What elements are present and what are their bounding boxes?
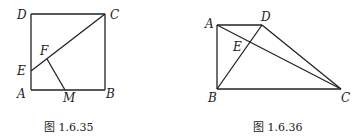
label-C: C xyxy=(110,8,119,22)
label-B: B xyxy=(207,91,217,105)
figure-1-6-36: A D E B C 图 1.6.36 xyxy=(204,10,350,134)
label-F: F xyxy=(39,44,49,58)
segment-FM xyxy=(47,59,65,90)
label-M: M xyxy=(62,91,76,105)
caption-figure-1-6-35: 图 1.6.35 xyxy=(44,121,93,134)
label-E: E xyxy=(16,64,26,78)
caption-figure-1-6-36: 图 1.6.36 xyxy=(253,121,302,134)
label-D: D xyxy=(16,8,27,22)
figure-1-6-35: D C F E A M B 图 1.6.35 xyxy=(16,8,119,134)
segment-AC xyxy=(217,25,341,89)
segment-BD xyxy=(217,25,262,89)
label-A: A xyxy=(16,87,26,101)
segment-DC xyxy=(262,25,341,89)
label-C: C xyxy=(341,91,350,105)
geometry-figures: D C F E A M B 图 1.6.35 A D E B C 图 1.6.3… xyxy=(0,0,353,140)
label-A: A xyxy=(204,17,214,31)
label-D: D xyxy=(260,10,271,24)
segment-EC xyxy=(31,14,105,71)
label-B: B xyxy=(105,87,115,101)
label-E: E xyxy=(232,40,242,54)
